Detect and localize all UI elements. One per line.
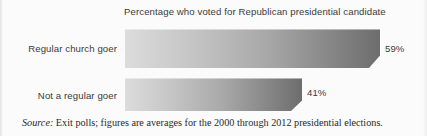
chart-title: Percentage who voted for Republican pres… (124, 6, 414, 17)
bar-row (125, 78, 302, 111)
bar-row (125, 29, 380, 68)
bar-not-a-regular-goer (125, 78, 302, 111)
bar-fill (125, 29, 380, 68)
bar-regular-church-goer (125, 29, 380, 68)
bar-fill (125, 78, 302, 111)
bar-value-label-not-a-regular-goer: 41% (307, 87, 327, 98)
category-label-not-a-regular-goer: Not a regular goer (38, 90, 117, 101)
source-note: Source: Exit polls; figures are averages… (22, 117, 383, 128)
bar-value-label-regular-church-goer: 59% (385, 43, 405, 54)
source-text: Exit polls; figures are averages for the… (53, 117, 383, 128)
source-prefix: Source: (22, 117, 53, 128)
category-label-regular-church-goer: Regular church goer (28, 43, 117, 54)
bar-chart-figure: Percentage who voted for Republican pres… (0, 0, 427, 136)
